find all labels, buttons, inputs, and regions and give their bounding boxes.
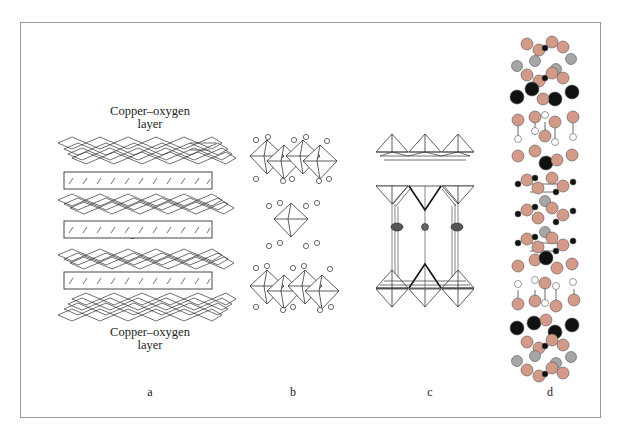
atoms-d-upper-chain <box>512 111 579 146</box>
copper-oxygen-layer-middle-2 <box>58 249 234 269</box>
charge-reservoir-slab-3 <box>64 272 212 289</box>
atoms-d-middle <box>512 145 578 274</box>
panel-d-diagram <box>510 36 580 382</box>
atom-c-center <box>422 224 429 231</box>
atom-c-right <box>451 223 463 231</box>
panel-c-diagram <box>376 134 474 307</box>
figure-illustration <box>0 0 638 442</box>
copper-oxygen-layer-top <box>58 137 236 164</box>
panel-b-diagram <box>250 134 339 312</box>
copper-oxygen-layer-middle-1 <box>58 194 234 214</box>
octahedral-layer-bottom <box>250 270 339 309</box>
octahedral-layer-top <box>250 140 337 179</box>
atoms-d-lower-chain <box>512 277 580 313</box>
pyramid-layer-bottom <box>376 281 474 307</box>
pyramid-layer-top <box>376 134 474 160</box>
panel-a-diagram <box>58 137 236 321</box>
copper-oxygen-layer-bottom <box>58 293 236 321</box>
pyramid-block-middle <box>376 186 474 290</box>
isolated-octahedron <box>274 203 308 237</box>
atoms-d-bottom <box>510 314 579 382</box>
charge-reservoir-slab-1 <box>64 172 212 189</box>
charge-reservoir-slab-2 <box>64 221 212 238</box>
atoms-d-top <box>510 36 579 106</box>
atom-c-left <box>391 223 403 231</box>
